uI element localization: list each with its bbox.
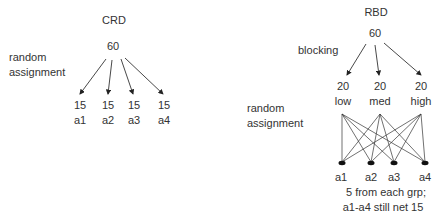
rbd-block-label: low xyxy=(335,95,352,108)
crd-group-n: 15 xyxy=(102,99,114,112)
rbd-treatment-label: a4 xyxy=(419,171,431,184)
crd-title: CRD xyxy=(102,14,126,27)
rbd-note-1: 5 from each grp; xyxy=(346,186,426,199)
rbd-block-label: high xyxy=(411,95,432,108)
crd-group-label: a3 xyxy=(128,114,140,127)
crd-group-n: 15 xyxy=(158,99,170,112)
rbd-block-n: 20 xyxy=(337,80,349,93)
crd-arrows xyxy=(80,58,163,94)
rbd-block-label: med xyxy=(369,95,390,108)
rbd-assignment-lines xyxy=(342,114,425,162)
rbd-block-n: 20 xyxy=(415,80,427,93)
crd-group-label: a1 xyxy=(74,114,86,127)
rbd-side-label-2: assignment xyxy=(247,117,303,130)
crd-side-label-2: assignment xyxy=(9,66,65,79)
rbd-title: RBD xyxy=(364,6,387,19)
rbd-treatment-label: a3 xyxy=(388,171,400,184)
diagram-canvas: CRD 60 random assignment 15 15 15 15 a1 … xyxy=(0,0,437,219)
crd-side-label-1: random xyxy=(9,51,46,64)
crd-group-n: 15 xyxy=(128,99,140,112)
rbd-arrowheads xyxy=(339,161,429,165)
rbd-blocking-label: blocking xyxy=(298,44,338,57)
crd-group-n: 15 xyxy=(74,99,86,112)
crd-group-label: a4 xyxy=(158,114,170,127)
crd-group-label: a2 xyxy=(102,114,114,127)
rbd-block-n: 20 xyxy=(374,80,386,93)
crd-total: 60 xyxy=(107,40,119,53)
rbd-blocking-arrows xyxy=(347,43,421,75)
rbd-treatment-label: a1 xyxy=(335,171,347,184)
rbd-note-2: a1-a4 still net 15 xyxy=(343,201,424,214)
rbd-side-label-1: random xyxy=(247,102,284,115)
rbd-total: 60 xyxy=(369,27,381,40)
rbd-treatment-label: a2 xyxy=(365,171,377,184)
